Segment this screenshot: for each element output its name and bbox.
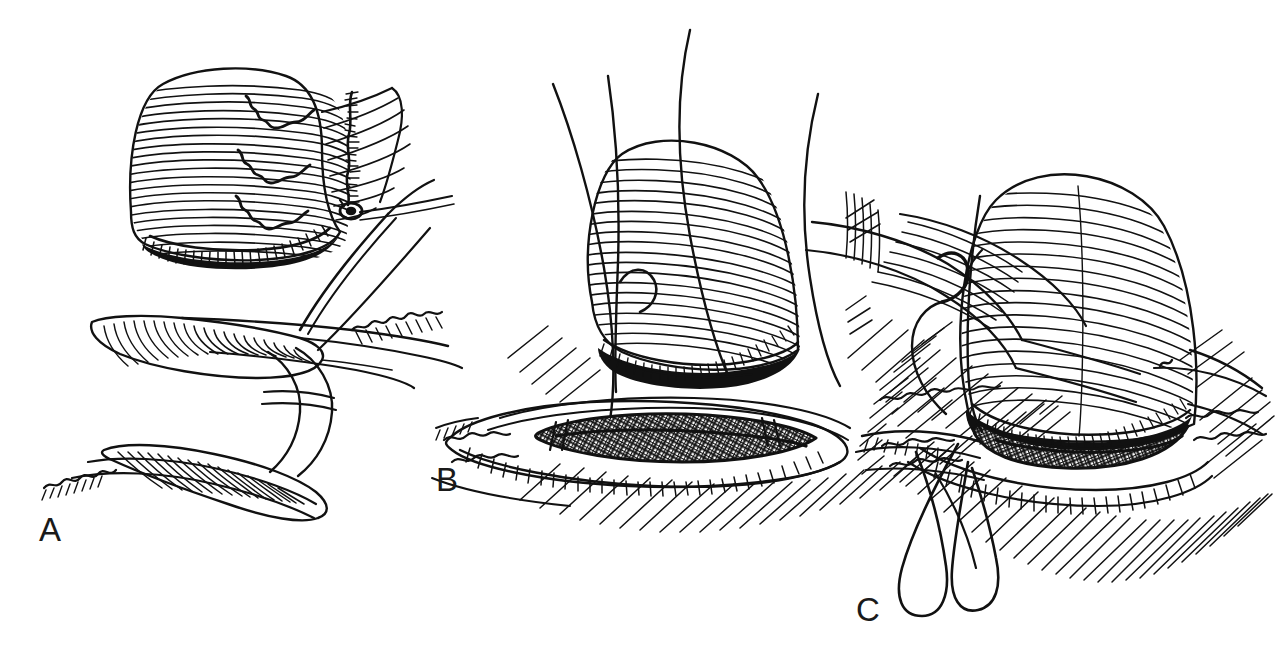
- panel-label-b: B: [436, 463, 459, 496]
- surgical-illustration-svg: [0, 0, 1276, 658]
- figure-canvas: A B C: [0, 0, 1276, 658]
- paper-background: [0, 0, 1276, 658]
- panel-label-a: A: [39, 513, 62, 546]
- panel-label-c: C: [856, 593, 880, 626]
